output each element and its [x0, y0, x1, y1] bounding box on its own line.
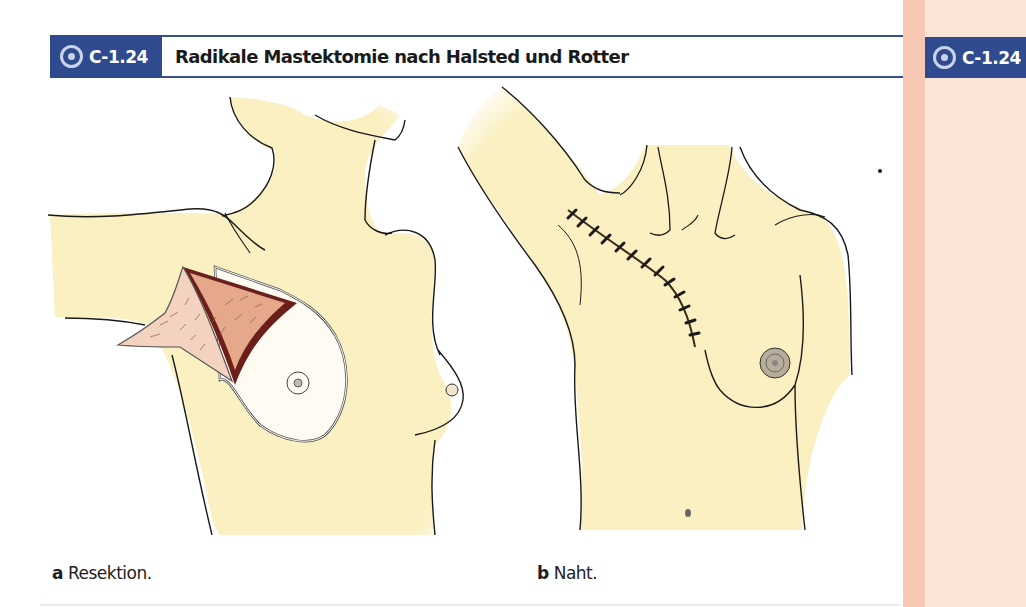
- figure-number-badge: C-1.24: [50, 35, 162, 78]
- target-icon: [60, 45, 83, 68]
- bottom-divider: [40, 604, 900, 606]
- figure-number: C-1.24: [89, 47, 148, 67]
- caption-panel-b: bNaht.: [537, 563, 597, 583]
- chest-resection-illustration: [40, 85, 480, 535]
- sidebar-edge-strip: [903, 0, 925, 607]
- caption-text: Resektion.: [68, 563, 152, 583]
- panel-letter: b: [537, 563, 549, 583]
- margin-sidebar: [925, 0, 1026, 607]
- chest-suture-illustration: [450, 85, 900, 535]
- figure-header: C-1.24 Radikale Mastektomie nach Halsted…: [50, 35, 903, 78]
- target-icon: [933, 46, 956, 69]
- figure-title: Radikale Mastektomie nach Halsted und Ro…: [175, 37, 628, 76]
- sidebar-figure-badge: C-1.24: [925, 37, 1026, 78]
- caption-text: Naht.: [554, 563, 597, 583]
- panel-letter: a: [52, 563, 63, 583]
- caption-panel-a: aResektion.: [52, 563, 152, 583]
- sidebar-figure-number: C-1.24: [962, 48, 1021, 68]
